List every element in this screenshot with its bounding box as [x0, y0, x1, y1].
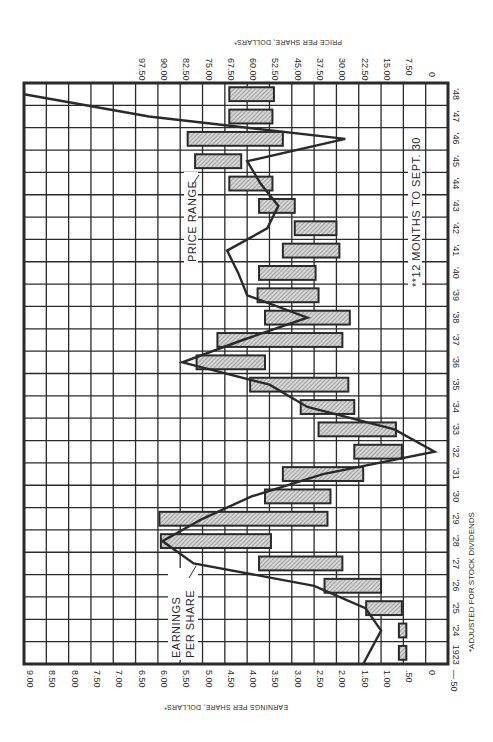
months-note: **12 MONTHS TO SEPT. 30 [410, 137, 422, 287]
footnote: *ADJUSTED FOR STOCK DIVIDENDS [467, 512, 476, 652]
year-label: '48 [451, 88, 461, 100]
price-range-bar-1936 [197, 355, 265, 369]
price-range-bar-1923 [399, 646, 406, 660]
price-tick-label: 97.50 [137, 58, 147, 81]
price-range-bar-1933 [319, 422, 396, 436]
earnings-tick-label: 7.00 [114, 670, 124, 688]
year-label: '39 [451, 289, 461, 301]
price-tick-label: 7.50 [404, 58, 414, 76]
price-range-bar-1929 [159, 512, 327, 526]
price-range-bar-1928 [161, 534, 271, 548]
price-range-bar-1948 [229, 87, 274, 101]
price-range-bar-1925 [366, 601, 402, 615]
earnings-tick-label: 8.00 [70, 670, 80, 688]
earnings-tick-label: 6.00 [159, 670, 169, 688]
price-range-bar-1945 [195, 154, 241, 168]
price-range-bar-1947 [229, 110, 272, 124]
earnings-tick-label: 3.50 [270, 670, 280, 688]
earnings-tick-label: 1.00 [382, 670, 392, 688]
price-range-bar-1926 [325, 579, 382, 593]
price-range-bar-1946 [188, 132, 283, 146]
year-label: '25 [451, 602, 461, 614]
price-range-bar-1939 [258, 288, 319, 302]
price-tick-label: 30.00 [337, 58, 347, 81]
earnings-tick-label: 3.00 [293, 670, 303, 688]
year-label: '36 [451, 356, 461, 368]
year-label: '33 [451, 423, 461, 435]
price-tick-label: 82.50 [181, 58, 191, 81]
left-axis-title: EARNINGS PER SHARE, DOLLARS* [164, 704, 288, 711]
price-tick-label: 90.00 [159, 58, 169, 81]
year-label: '42 [451, 222, 461, 234]
price-range-bar-1924 [399, 624, 406, 638]
earnings-tick-label: 2.00 [337, 670, 347, 688]
year-label: '46 [451, 133, 461, 145]
earnings-tick-label: 2.50 [315, 670, 325, 688]
price-range-bar-1930 [265, 489, 330, 503]
year-label: '32 [451, 446, 461, 458]
year-label: '47 [451, 111, 461, 123]
per-share-label: PER SHARE [184, 590, 196, 658]
year-label: '30 [451, 490, 461, 502]
year-label: '26 [451, 580, 461, 592]
price-range-bar-1927 [259, 557, 342, 571]
earnings-tick-label: 1.50 [360, 670, 370, 688]
year-label: '40 [451, 267, 461, 279]
price-tick-label: 52.50 [270, 58, 280, 81]
price-range-bar-1937 [217, 333, 342, 347]
price-tick-label: 60.00 [248, 58, 258, 81]
chart-grid [24, 83, 448, 664]
year-label: '34 [451, 401, 461, 413]
year-label: '45 [451, 155, 461, 167]
earnings-label: EARNINGS [170, 597, 182, 658]
price-range-bar-1944 [229, 177, 272, 191]
price-tick-label: 37.50 [315, 58, 325, 81]
earnings-tick-label: .50 [404, 670, 414, 683]
year-label: '31 [451, 468, 461, 480]
price-tick-label: 0 [427, 72, 437, 77]
earnings-tick-label: 4.50 [226, 670, 236, 688]
price-tick-label: 15.00 [382, 58, 392, 81]
earnings-tick-label: 5.00 [204, 670, 214, 688]
year-label: '28 [451, 535, 461, 547]
earnings-price-chart: 9.008.508.007.507.006.506.005.505.004.50… [0, 0, 493, 742]
price-range-label: PRICE RANGE [186, 181, 198, 262]
earnings-tick-label: —.50 [449, 670, 459, 692]
year-label: '24 [451, 624, 461, 636]
year-label: '35 [451, 379, 461, 391]
price-tick-label: 75.00 [204, 58, 214, 81]
price-tick-label: 67.50 [226, 58, 236, 81]
price-range-bar-1941 [283, 244, 340, 258]
year-label: 1923 [451, 645, 461, 665]
earnings-tick-label: 5.50 [181, 670, 191, 688]
year-label: '37 [451, 334, 461, 346]
earnings-tick-label: 6.50 [137, 670, 147, 688]
year-label: '41 [451, 245, 461, 257]
price-tick-label: 22.50 [360, 58, 370, 81]
price-range-bar-1932 [354, 445, 402, 459]
earnings-tick-label: 8.50 [47, 670, 57, 688]
price-range-bar-1942 [295, 221, 337, 235]
year-label: '43 [451, 200, 461, 212]
earnings-tick-label: 9.00 [25, 670, 35, 688]
year-label: '27 [451, 557, 461, 569]
price-tick-label: 45.00 [293, 58, 303, 81]
year-label: '38 [451, 312, 461, 324]
year-label: '44 [451, 178, 461, 190]
right-axis-title: PRICE PER SHARE, DOLLARS* [234, 39, 342, 46]
earnings-tick-label: 7.50 [92, 670, 102, 688]
year-label: '29 [451, 513, 461, 525]
earnings-tick-label: 4.00 [248, 670, 258, 688]
price-range-bar-1940 [259, 266, 316, 280]
earnings-tick-label: 0 [427, 670, 437, 675]
